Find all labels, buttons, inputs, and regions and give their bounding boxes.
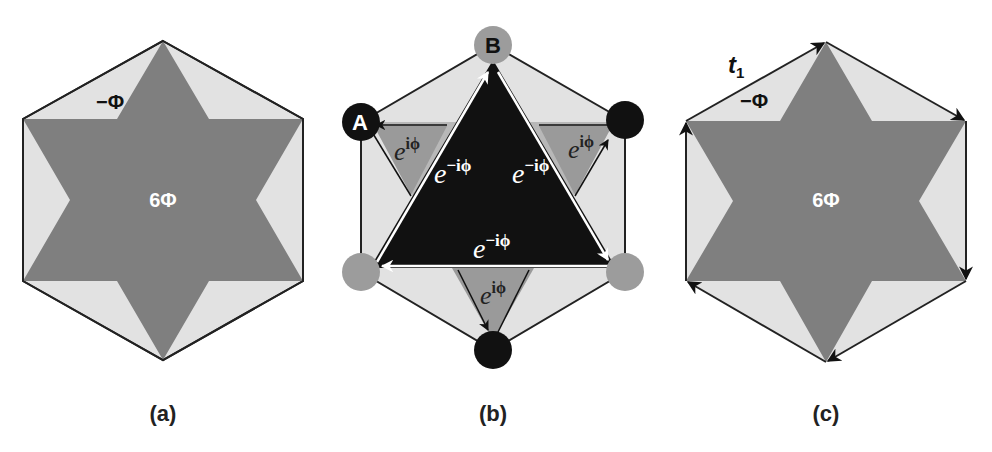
- site-bottom-right: [606, 253, 644, 291]
- center-flux-label: 6Φ: [149, 189, 177, 211]
- site-top-right: [606, 101, 644, 139]
- panel-a: −Φ 6Φ (a): [23, 41, 303, 426]
- panel-caption: (a): [150, 401, 177, 426]
- corner-flux-label: −Φ: [96, 91, 124, 113]
- panel-caption: (b): [479, 401, 507, 426]
- center-flux-label: 6Φ: [812, 189, 840, 211]
- site-bottom: [474, 331, 512, 369]
- corner-flux-label: −Φ: [740, 90, 768, 112]
- site-a-label: A: [352, 110, 368, 135]
- panel-c: t1 −Φ 6Φ (c): [686, 42, 966, 426]
- hopping-label: t1: [728, 51, 744, 81]
- panel-caption: (c): [813, 401, 840, 426]
- site-b-label: B: [485, 33, 501, 58]
- figure-canvas: −Φ 6Φ (a) B A e−iϕ: [0, 0, 992, 452]
- panel-b: B A e−iϕ e−iϕ e−iϕ eiϕ eiϕ eiϕ (b): [342, 26, 644, 426]
- site-bottom-left: [342, 253, 380, 291]
